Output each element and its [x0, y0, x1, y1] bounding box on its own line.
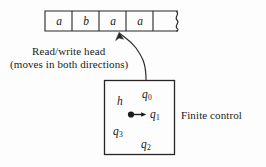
figure-vector-layer [0, 0, 266, 167]
tape-continuation-squiggle [176, 12, 178, 32]
finite-control-box [105, 81, 175, 155]
read-write-head-arrowhead [116, 32, 124, 40]
tape-cell-dividers [72, 11, 153, 31]
turing-machine-figure: a b a a Read/write head (moves in both d… [0, 0, 266, 167]
read-write-head-leader-curve [121, 34, 147, 80]
current-state-arrowhead [141, 112, 146, 116]
tape-outline [45, 11, 178, 31]
